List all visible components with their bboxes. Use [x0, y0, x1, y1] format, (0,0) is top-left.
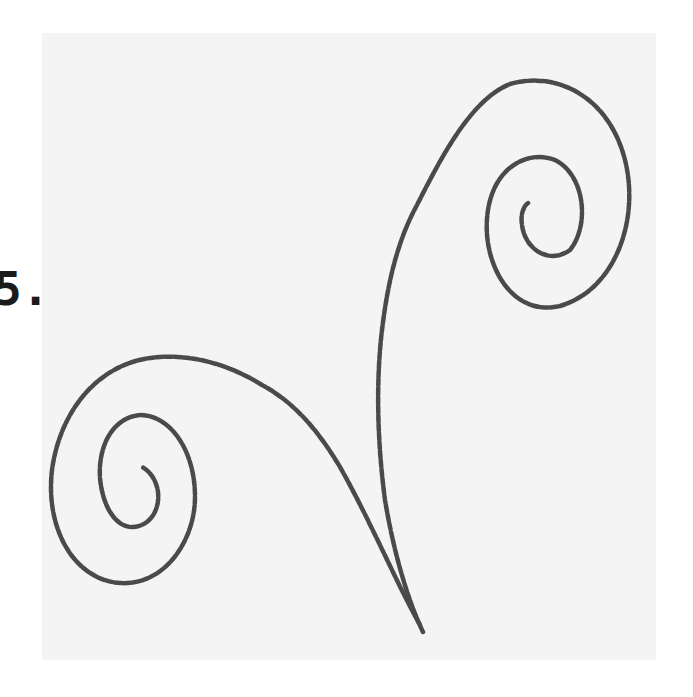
right-spiral — [378, 81, 629, 632]
spiral-figure — [0, 0, 693, 697]
left-spiral — [51, 357, 420, 625]
